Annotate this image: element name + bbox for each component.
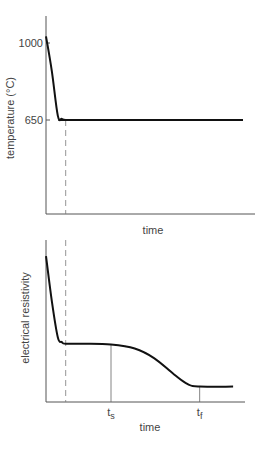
- y-axis-label: temperature (°C): [4, 77, 16, 159]
- y-tick-label: 650: [25, 114, 43, 126]
- temperature-curve: [46, 36, 243, 120]
- y-tick-label: 1000: [19, 37, 43, 49]
- figure: 1000650 time temperature (°C) tstf time …: [0, 0, 259, 450]
- x-tick-label-ts: ts: [107, 406, 115, 421]
- x-axis-label: time: [143, 224, 164, 236]
- temperature-chart: 1000650 time temperature (°C): [4, 16, 255, 236]
- resistivity-curve: [46, 256, 233, 387]
- x-tick-label-tf: tf: [197, 406, 203, 421]
- x-axis-label: time: [140, 421, 161, 433]
- y-axis-label: electrical resistivity: [19, 272, 31, 364]
- resistivity-chart: tstf time electrical resistivity: [19, 240, 245, 433]
